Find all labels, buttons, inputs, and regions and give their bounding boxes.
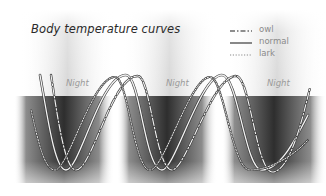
night-label-2: Night [166, 78, 189, 88]
legend-label-lark: lark [259, 48, 275, 58]
night-label-1: Night [66, 78, 89, 88]
chart-canvas: Body temperature curves owl normal lark … [0, 0, 326, 196]
legend-item-lark: lark [228, 49, 318, 61]
legend-label-normal: normal [259, 36, 289, 46]
chart-title: Body temperature curves [31, 22, 180, 36]
legend: owl normal lark [228, 25, 318, 61]
legend-label-owl: owl [259, 24, 274, 34]
night-label-3: Night [267, 78, 290, 88]
